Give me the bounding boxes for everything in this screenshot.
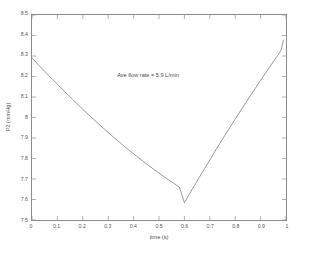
plot-axes-frame (31, 14, 287, 221)
x-tick-label: 0.5 (155, 224, 162, 229)
y-tick-label: 7.9 (21, 136, 28, 141)
chart-annotation-flow-rate: Ave flow rate = 5.9 L/min (117, 72, 179, 78)
y-axis-title: P2 (mmHg) (5, 103, 11, 132)
y-tick-label: 8.4 (21, 32, 28, 37)
figure-canvas: 00.10.20.30.40.50.60.70.80.91 7.57.67.77… (0, 0, 312, 256)
x-axis-title: time (s) (150, 234, 169, 240)
y-tick-marks (32, 15, 286, 220)
y-tick-label: 8.1 (21, 94, 28, 99)
y-tick-label: 8.2 (21, 73, 28, 78)
x-tick-label: 0.1 (53, 224, 60, 229)
y-tick-label: 7.5 (21, 218, 28, 223)
x-tick-label: 0.8 (232, 224, 239, 229)
data-series-line-p2 (32, 40, 283, 203)
y-tick-label: 7.8 (21, 156, 28, 161)
y-tick-label: 8 (25, 115, 28, 120)
y-tick-label: 8.5 (21, 11, 28, 16)
x-tick-label: 1 (286, 224, 289, 229)
y-tick-label: 7.7 (21, 177, 28, 182)
x-tick-label: 0 (30, 224, 33, 229)
x-tick-label: 0.6 (181, 224, 188, 229)
x-tick-label: 0.7 (207, 224, 214, 229)
x-tick-marks (32, 15, 286, 220)
plot-svg (32, 15, 286, 220)
x-tick-label: 0.2 (79, 224, 86, 229)
y-tick-label: 8.3 (21, 53, 28, 58)
y-tick-label: 7.6 (21, 198, 28, 203)
x-tick-label: 0.9 (258, 224, 265, 229)
x-tick-label: 0.3 (104, 224, 111, 229)
x-tick-label: 0.4 (130, 224, 137, 229)
